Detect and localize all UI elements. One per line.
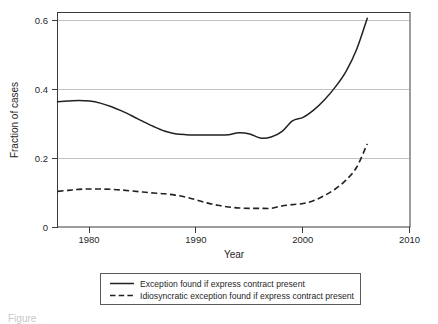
line-chart: 0.6 0.4 0.2 0 Fraction of cases 1980 199… — [0, 0, 438, 324]
x-axis-ticks — [89, 227, 410, 233]
plot-background — [57, 12, 410, 227]
figure-container: 0.6 0.4 0.2 0 Fraction of cases 1980 199… — [0, 0, 438, 324]
xtick-label-1980: 1980 — [79, 234, 100, 245]
ytick-label-0.4: 0.4 — [35, 84, 48, 95]
legend-label-exception-found: Exception found if express contract pres… — [140, 279, 305, 289]
figure-caption: Figure — [8, 313, 37, 324]
legend-label-idiosyncratic-exception: Idiosyncratic exception found if express… — [140, 291, 355, 301]
ytick-label-0.2: 0.2 — [35, 153, 48, 164]
xtick-label-1990: 1990 — [185, 234, 206, 245]
y-axis-ticks — [52, 20, 58, 227]
xtick-label-2010: 2010 — [399, 234, 420, 245]
x-axis-title: Year — [224, 249, 245, 260]
ytick-label-0: 0 — [43, 222, 48, 233]
ytick-label-0.6: 0.6 — [35, 15, 48, 26]
y-axis-title: Fraction of cases — [9, 82, 20, 158]
xtick-label-2000: 2000 — [292, 234, 313, 245]
y-axis-tick-labels: 0.6 0.4 0.2 0 — [35, 15, 48, 233]
chart-legend: Exception found if express contract pres… — [101, 274, 361, 305]
x-axis-tick-labels: 1980 1990 2000 2010 — [79, 234, 421, 245]
